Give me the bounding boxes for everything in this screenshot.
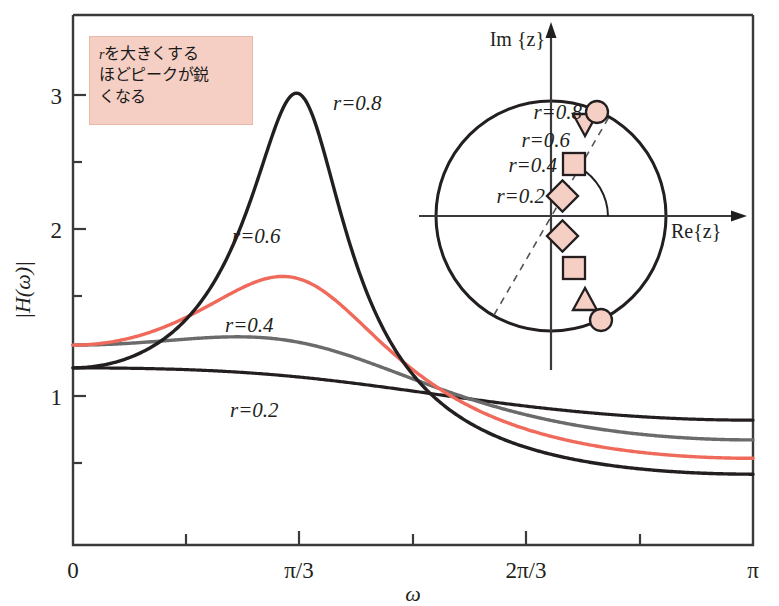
inset-label-r-0-6: r=0.6: [521, 128, 570, 152]
x-tick-2pi-over-3: 2π/3: [505, 558, 546, 583]
pole-marker-circle-r08-conj: [590, 309, 612, 331]
pole-marker-square-r04-conj: [563, 257, 585, 279]
annotation-line-2: ほどピークが鋭: [99, 65, 209, 84]
pole-marker-square-r04: [563, 153, 585, 175]
x-tick-0: 0: [67, 558, 79, 583]
x-axis-tick-labels: 0 π/3 2π/3 π: [67, 558, 759, 583]
y-tick-1: 1: [51, 385, 63, 410]
pole-marker-triangle-r06-conj: [573, 288, 597, 310]
y-axis-ticks: [73, 95, 86, 463]
annotation-line-3: くなる: [99, 87, 146, 106]
inset-label-r-0-8: r=0.8: [533, 100, 582, 124]
pole-markers-lower: [547, 220, 612, 331]
annotation-box: rを大きくする ほどピークが鋭 くなる: [89, 36, 253, 125]
x-axis-ticks: [186, 531, 640, 545]
inset-re-axis-label: Re{z}: [671, 220, 721, 242]
y-tick-3: 3: [51, 84, 63, 109]
y-tick-2: 2: [51, 218, 63, 243]
curves-group: [73, 93, 753, 474]
inset-label-r-0-4: r=0.4: [508, 153, 557, 177]
figure-container: 3 2 1 |H(ω)| 0 π/3 2π/3 π ω r=: [0, 0, 779, 606]
annotation-text: rを大きくする ほどピークが鋭 くなる: [90, 37, 252, 107]
series-label-r-0-8: r=0.8: [333, 91, 382, 115]
curve-r-0-6: [73, 276, 753, 458]
series-label-r-0-6: r=0.6: [232, 224, 281, 248]
x-tick-pi-over-3: π/3: [284, 558, 314, 583]
inset-label-r-0-2: r=0.2: [496, 184, 545, 208]
series-label-r-0-4: r=0.4: [225, 313, 274, 337]
x-tick-pi: π: [747, 558, 759, 583]
zplane-inset: Im {z} Re{z}: [419, 22, 747, 370]
curve-r-0-4: [73, 337, 753, 440]
x-axis-title: ω: [405, 581, 421, 606]
inset-im-axis-label: Im {z}: [490, 28, 545, 50]
pole-marker-circle-r08: [586, 101, 608, 123]
annotation-line-1: を大きくする: [104, 44, 198, 63]
y-axis-tick-labels: 3 2 1: [51, 84, 63, 410]
series-label-r-0-2: r=0.2: [230, 398, 279, 422]
y-axis-title: |H(ω)|: [10, 261, 35, 319]
